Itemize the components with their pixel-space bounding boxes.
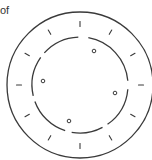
inner-ring-segment xyxy=(72,127,103,133)
marker-dot xyxy=(67,119,71,123)
tick-mark xyxy=(131,53,135,56)
inner-ring-segment xyxy=(32,57,41,95)
tick-mark xyxy=(109,30,112,34)
marker-dot xyxy=(113,91,117,95)
marker-dot xyxy=(41,79,45,83)
inner-ring-segment xyxy=(108,89,128,124)
tick-mark xyxy=(25,114,29,117)
ring-diagram xyxy=(0,0,152,160)
tick-mark xyxy=(109,136,112,140)
tick-marks xyxy=(17,22,144,149)
outer-circle xyxy=(7,12,152,158)
inner-ring xyxy=(32,37,128,133)
tick-mark xyxy=(48,30,51,34)
tick-mark xyxy=(25,53,29,56)
tick-mark xyxy=(131,114,135,117)
inner-ring-segment xyxy=(44,37,78,53)
marker-dot xyxy=(92,49,96,53)
tick-mark xyxy=(48,136,51,140)
outer-ring xyxy=(7,12,152,158)
inner-ring-segment xyxy=(88,38,127,81)
marker-dots xyxy=(41,49,117,123)
inner-ring-segment xyxy=(35,101,65,130)
